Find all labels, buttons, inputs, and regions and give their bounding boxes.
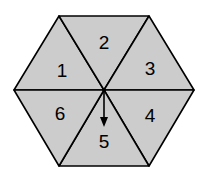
sector-label-3: 3 bbox=[145, 58, 156, 79]
hexagon-spinner: 1 2 3 4 5 6 bbox=[0, 0, 207, 175]
sector-label-1: 1 bbox=[57, 60, 68, 81]
sector-label-6: 6 bbox=[55, 103, 66, 124]
spinner-diagram: 1 2 3 4 5 6 bbox=[0, 0, 207, 175]
sector-label-4: 4 bbox=[145, 105, 156, 126]
sector-label-2: 2 bbox=[99, 32, 110, 53]
sector-label-5: 5 bbox=[99, 131, 110, 152]
